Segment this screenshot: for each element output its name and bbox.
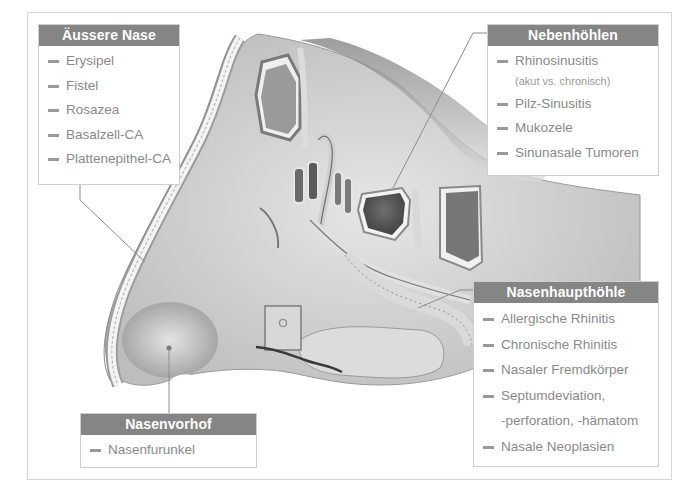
condition-list: Nasenfurunkel [81,435,256,465]
label-box-nasenhaupthoehle: Nasenhaupthöhle Allergische Rhinitis Chr… [473,281,659,467]
item-label: Nasenfurunkel [108,442,195,457]
condition-list: Rhinosinusitis (akut vs. chronisch) Pilz… [488,46,658,167]
dash-bullet-icon [483,369,494,372]
dash-bullet-icon [483,395,494,398]
dash-bullet-icon [90,449,101,452]
item-label: Allergische Rhinitis [501,311,615,326]
inferior-turbinate [299,327,444,378]
dash-bullet-icon [48,158,59,161]
item-label: Rhinosinusitis [515,53,598,68]
condition-list: Erysipel Fistel Rosazea Basalzell-CA Pla… [39,46,179,174]
label-box-aeussere-nase: Äussere Nase Erysipel Fistel Rosazea Bas… [38,24,180,185]
dash-bullet-icon [497,152,508,155]
dash-bullet-icon [497,127,508,130]
box-title: Äussere Nase [39,25,179,46]
list-item: Septumdeviation, [474,383,658,409]
item-label: Fistel [66,78,98,93]
dash-bullet-icon [497,60,508,63]
list-item: Rosazea [39,98,179,123]
item-label: Septumdeviation, [501,388,605,403]
septal-marker [265,306,301,350]
item-label: Nasaler Fremdkörper [501,362,629,377]
list-item: Erysipel [39,49,179,74]
dash-bullet-icon [483,344,494,347]
list-item: Nasenfurunkel [81,438,256,463]
list-item: Sinunasale Tumoren [488,141,658,166]
list-item-note: (akut vs. chronisch) [488,74,658,92]
dash-bullet-icon [483,318,494,321]
item-note: (akut vs. chronisch) [515,75,610,87]
item-label: Sinunasale Tumoren [515,145,639,160]
item-label: Mukozele [515,120,573,135]
list-item: Pilz-Sinusitis [488,92,658,117]
label-box-nebenhoehlen: Nebenhöhlen Rhinosinusitis (akut vs. chr… [487,24,659,176]
list-item: Allergische Rhinitis [474,306,658,332]
box-title: Nasenvorhof [81,414,256,435]
dash-bullet-icon [48,60,59,63]
list-item: Nasale Neoplasien [474,434,658,460]
dash-bullet-icon [483,446,494,449]
list-item: Nasaler Fremdkörper [474,357,658,383]
item-label: Rosazea [66,102,119,117]
box-title: Nebenhöhlen [488,25,658,46]
list-item-continuation: -perforation, -hämatom [474,408,658,434]
dash-bullet-icon [48,134,59,137]
list-item: Chronische Rhinitis [474,332,658,358]
item-label: Nasale Neoplasien [501,439,614,454]
leader-aeussere-nase [80,185,145,262]
item-label: Pilz-Sinusitis [515,96,592,111]
condition-list: Allergische Rhinitis Chronische Rhinitis… [474,303,658,461]
dash-bullet-icon [497,103,508,106]
nasal-vestibule [122,302,218,378]
item-label: Plattenepithel-CA [66,151,171,166]
item-label: Basalzell-CA [66,127,143,142]
item-label: Erysipel [66,53,114,68]
dash-bullet-icon [48,85,59,88]
list-item: Mukozele [488,116,658,141]
item-label: -perforation, -hämatom [501,413,638,428]
list-item: Basalzell-CA [39,123,179,148]
list-item: Fistel [39,74,179,99]
label-box-nasenvorhof: Nasenvorhof Nasenfurunkel [80,413,257,468]
box-title: Nasenhaupthöhle [474,282,658,303]
dash-bullet-icon [48,109,59,112]
list-item: Rhinosinusitis [488,49,658,74]
list-item: Plattenepithel-CA [39,147,179,172]
item-label: Chronische Rhinitis [501,337,617,352]
